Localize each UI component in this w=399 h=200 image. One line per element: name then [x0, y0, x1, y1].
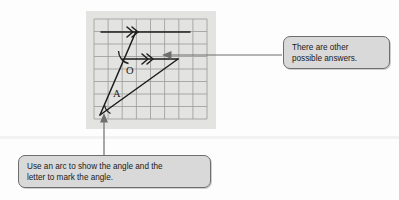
callout-other-answers-line2: possible answers. [292, 53, 382, 64]
callout-other-answers-line1: There are other [292, 42, 382, 53]
callout-use-arc-line2: letter to mark the angle. [27, 172, 203, 183]
callout-use-arc-line1: Use an arc to show the angle and the [27, 161, 203, 172]
page-root: O A There are other possible answers. Us… [0, 0, 399, 200]
label-angle-o: O [126, 65, 134, 76]
label-angle-a: A [113, 88, 121, 99]
grid-lines [94, 19, 207, 119]
callout-use-arc[interactable]: Use an arc to show the angle and the let… [18, 155, 211, 188]
callout-other-answers[interactable]: There are other possible answers. [283, 36, 390, 69]
connector-answers [162, 51, 282, 59]
